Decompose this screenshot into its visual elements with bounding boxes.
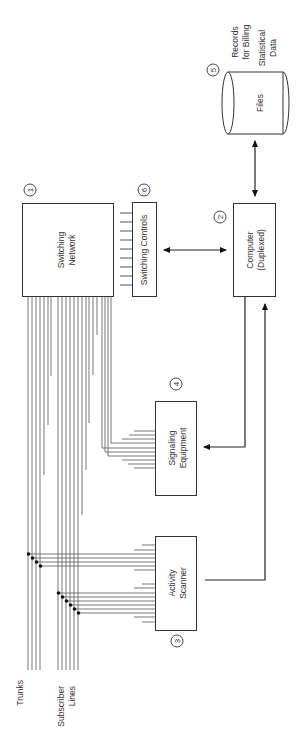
node-number-3: 3 [173, 638, 182, 643]
files-note-data: Data [268, 39, 278, 57]
computer-signaling-arrow [204, 297, 245, 447]
scanner-subscriber-taps [57, 584, 155, 622]
node-number-5: 5 [209, 67, 218, 72]
activity-scanner-node[interactable]: Activity Scanner 3 [156, 537, 197, 648]
switching-controls-node[interactable]: Switching Controls 6 [120, 184, 157, 297]
scanner-computer-arrow [205, 304, 265, 580]
junction-dot [27, 552, 31, 556]
subscriber-lines-label-1: Subscriber [56, 686, 66, 727]
files-cylinder-bottom [283, 72, 289, 134]
node-number-2: 2 [216, 214, 225, 219]
trunks-label: Trunks [15, 680, 25, 706]
junction-dot [61, 595, 65, 599]
node-number-6: 6 [140, 187, 149, 192]
files-label: Files [255, 94, 265, 112]
scanner-trunk-taps [27, 545, 155, 570]
subscriber-lines-label-2: Lines [67, 686, 77, 706]
files-note-records: Records [230, 26, 240, 58]
line-labels: Trunks Subscriber Lines [15, 680, 77, 727]
junction-dot [57, 591, 61, 595]
junction-dot [77, 611, 81, 615]
switching-network-label-1: Switching [56, 232, 66, 269]
files-annotation: Records for Billing Statistical Data [230, 24, 278, 66]
junction-dot [35, 560, 39, 564]
signaling-equipment-node[interactable]: Signaling Equipment 4 [156, 378, 197, 496]
activity-scanner-label-1: Activity [167, 569, 177, 597]
junction-dot [31, 556, 35, 560]
files-cylinder-top [222, 72, 234, 134]
activity-scanner-label-2: Scanner [178, 567, 188, 599]
computer-label-2: (Duplexed) [256, 229, 266, 271]
junction-dot [39, 564, 43, 568]
junction-dot [69, 603, 73, 607]
files-note-statistical: Statistical [257, 30, 267, 66]
control-ticks [120, 213, 132, 285]
node-number-4: 4 [172, 381, 181, 386]
signaling-stub-lines [122, 431, 155, 468]
files-node[interactable]: Files 5 [207, 64, 289, 134]
switching-network-node[interactable]: Switching Network 1 [23, 184, 114, 297]
signaling-equipment-label-2: Equipment [178, 427, 188, 468]
telephone-switching-diagram: Switching Network 1 Switching Controls 6… [0, 0, 297, 742]
junction-dot [65, 599, 69, 603]
files-note-billing: for Billing [241, 24, 251, 59]
switching-controls-label: Switching Controls [139, 215, 149, 285]
signaling-equipment-label-1: Signaling [167, 430, 177, 465]
junction-dot [73, 607, 77, 611]
line-bundle [28, 296, 155, 670]
switching-network-label-2: Network [67, 234, 77, 266]
computer-label-1: Computer [245, 231, 255, 268]
node-number-1: 1 [26, 187, 35, 192]
